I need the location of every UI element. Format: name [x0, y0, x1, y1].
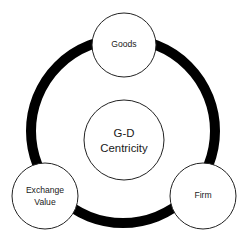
node-goods-label: Goods	[111, 39, 136, 49]
gd-centricity-diagram: G-D Centricity Goods Exchange Value Firm	[0, 0, 246, 247]
diagram-canvas: G-D Centricity Goods Exchange Value Firm	[0, 0, 246, 247]
core-label-line-2: Centricity	[100, 142, 148, 154]
node-firm-label: Firm	[194, 190, 211, 200]
node-exchange-value-label-line-1: Exchange	[26, 185, 64, 195]
node-exchange-value[interactable]	[12, 163, 78, 229]
node-exchange-value-label-line-2: Value	[34, 197, 56, 207]
core-label-line-1: G-D	[114, 127, 135, 139]
core-circle[interactable]	[84, 100, 164, 180]
